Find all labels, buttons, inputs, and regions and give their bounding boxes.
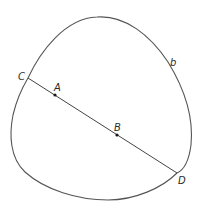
label-a: A [53,82,61,93]
label-b: B [114,122,121,133]
label-c: C [18,71,25,82]
point-b [115,133,118,136]
closed-curve-b [11,17,192,200]
label-d: D [178,175,186,186]
geometry-diagram: C A B D b [0,0,200,213]
label-curve-b: b [170,57,176,68]
point-a [53,93,56,96]
chord-cd [28,78,177,173]
